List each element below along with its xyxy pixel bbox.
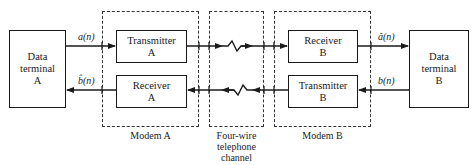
modem-a-caption: Modem A	[102, 130, 199, 141]
channel-caption-line-2: telephone	[200, 141, 273, 152]
transmitter-a-line-1: Transmitter	[127, 35, 176, 47]
modem-b-caption: Modem B	[274, 130, 371, 141]
transmitter-b: Transmitter B	[288, 75, 358, 108]
channel-caption-line-3: channel	[200, 152, 273, 163]
channel-caption-line-1: Four-wire	[200, 130, 273, 141]
data-terminal-b: Data terminal B	[409, 30, 469, 108]
data-terminal-a-line-2: terminal	[20, 63, 55, 75]
data-terminal-b-line-1: Data	[429, 51, 449, 63]
receiver-a: Receiver A	[116, 75, 187, 108]
transmitter-a-line-2: A	[148, 47, 156, 59]
data-terminal-b-line-3: B	[435, 75, 442, 87]
receiver-a-line-1: Receiver	[133, 80, 170, 92]
receiver-a-line-2: A	[148, 92, 156, 104]
channel-caption: Four-wire telephone channel	[200, 130, 273, 163]
data-terminal-a-line-1: Data	[28, 51, 48, 63]
signal-label-a-hat-n: â(n)	[378, 31, 395, 42]
data-terminal-a-line-3: A	[34, 75, 42, 87]
transmitter-a: Transmitter A	[116, 30, 187, 63]
receiver-b-line-2: B	[319, 47, 326, 59]
transmitter-b-line-2: B	[319, 92, 326, 104]
data-terminal-b-line-2: terminal	[422, 63, 457, 75]
receiver-b: Receiver B	[288, 30, 358, 63]
signal-label-a-n: a(n)	[78, 31, 95, 42]
receiver-b-line-1: Receiver	[304, 35, 341, 47]
transmitter-b-line-1: Transmitter	[299, 80, 348, 92]
data-terminal-a: Data terminal A	[9, 30, 66, 108]
signal-label-b-n: b(n)	[378, 75, 395, 86]
signal-label-b-hat-n: b̂(n)	[78, 75, 95, 86]
